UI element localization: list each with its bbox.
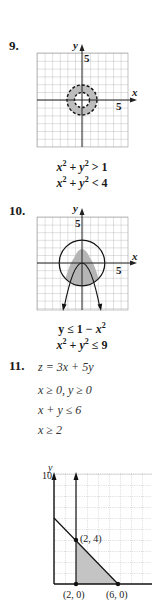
graph-11 <box>0 0 152 602</box>
vertex-label-2-4: (2, 4) <box>80 533 102 544</box>
vertex-label-2-0: (2, 0) <box>63 589 85 600</box>
vertex-label-6-0: (6, 0) <box>106 589 128 600</box>
y-tick-label: 10 <box>42 470 52 481</box>
